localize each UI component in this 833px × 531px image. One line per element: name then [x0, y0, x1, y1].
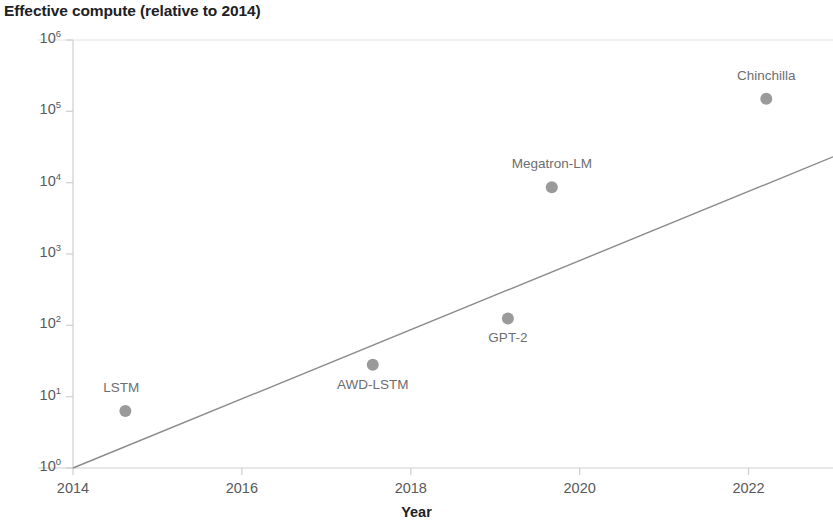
data-point-label: Chinchilla	[616, 68, 833, 83]
x-tick-label: 2016	[192, 480, 292, 496]
data-points	[119, 93, 772, 417]
y-tick-label: 105	[0, 101, 61, 117]
data-point-awd-lstm[interactable]	[367, 359, 379, 371]
data-point-megatron-lm[interactable]	[546, 181, 558, 193]
y-tick-marks	[66, 40, 73, 468]
axes	[38, 40, 833, 468]
y-tick-label: 106	[0, 30, 61, 46]
chart-figure: Effective compute (relative to 2014) 100…	[0, 0, 833, 531]
data-point-lstm[interactable]	[119, 405, 131, 417]
trendline	[73, 157, 833, 468]
x-tick-label: 2014	[23, 480, 123, 496]
trendline-path	[73, 157, 833, 468]
y-tick-label: 104	[0, 173, 61, 189]
data-point-gpt-2[interactable]	[502, 312, 514, 324]
data-point-chinchilla[interactable]	[760, 93, 772, 105]
x-tick-label: 2022	[699, 480, 799, 496]
x-tick-marks	[73, 468, 749, 475]
data-point-label: Megatron-LM	[402, 156, 702, 171]
y-tick-label: 100	[0, 458, 61, 474]
data-point-label: GPT-2	[358, 330, 658, 345]
data-point-label: AWD-LSTM	[223, 377, 523, 392]
x-tick-label: 2020	[530, 480, 630, 496]
x-tick-label: 2018	[361, 480, 461, 496]
x-axis-title: Year	[0, 504, 833, 520]
y-tick-label: 102	[0, 315, 61, 331]
y-tick-label: 103	[0, 244, 61, 260]
